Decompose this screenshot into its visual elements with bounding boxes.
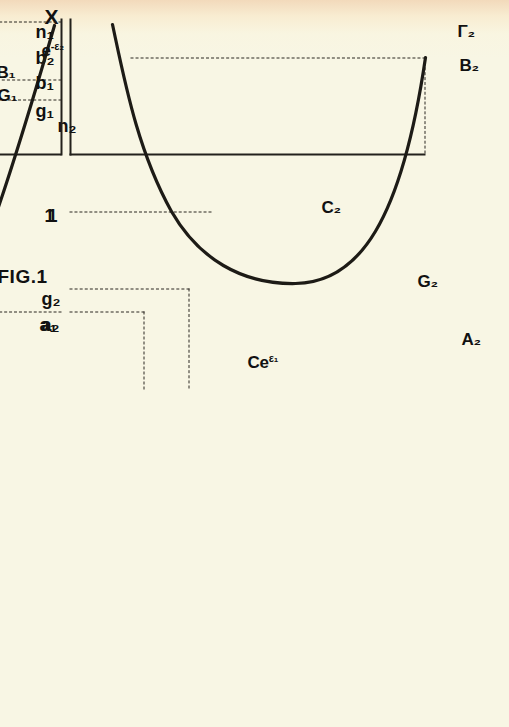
tick-one-lower: 1 (44, 206, 54, 224)
label-b1: B₁ (0, 63, 15, 80)
tick-n1: n₁ (35, 22, 53, 40)
tick-a1: a₁ (39, 315, 56, 333)
label-g1: G₁ (0, 86, 17, 103)
figure-page: Γ₂ B₂ A₂ G₂ C₂ Ceε₁ X b₂ n₂ 1 g₂ (0, 0, 509, 727)
figure-caption: FIG.1 (0, 265, 47, 287)
tick-b1: b₁ (35, 73, 53, 91)
label-e-minus-epsilon2: e-ε₂ (41, 40, 63, 59)
figure-stage: Γ₂ B₂ A₂ G₂ C₂ Ceε₁ X b₂ n₂ 1 g₂ (0, 0, 509, 727)
tick-g1: g₁ (35, 101, 53, 119)
lower-curve-svg (0, 0, 509, 727)
